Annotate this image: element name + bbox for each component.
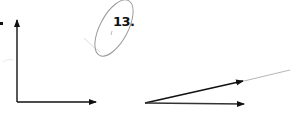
lower-vector-arrow (145, 103, 244, 104)
faint-pencil-stroke (84, 38, 100, 52)
diagram-canvas (0, 0, 290, 114)
upper-vector-arrow (145, 81, 243, 103)
problem-number-label: 13. (113, 14, 135, 29)
upper-vector-extension (244, 70, 290, 81)
bullet-dot (0, 22, 3, 25)
faint-pencil-stroke (2, 59, 14, 62)
angled-vectors-figure (145, 70, 290, 104)
hand-drawn-circle (87, 0, 141, 62)
perpendicular-vectors-figure (17, 20, 96, 102)
pencil-tick-mark (111, 31, 112, 35)
